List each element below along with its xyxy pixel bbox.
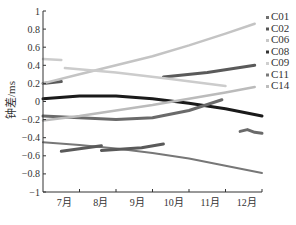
series-c06 — [43, 24, 255, 84]
legend-label: C06 — [271, 33, 290, 45]
legend-marker-icon — [266, 85, 269, 88]
legend-label: C01 — [271, 10, 289, 22]
legend-item-c08: C08 — [266, 45, 290, 57]
series-segment — [240, 130, 262, 134]
legend-marker-icon — [266, 51, 269, 54]
legend-marker-icon — [266, 74, 269, 77]
axes — [43, 11, 262, 192]
legend-item-c02: C02 — [266, 22, 289, 34]
legend-marker-icon — [266, 28, 269, 31]
y-tick-label: −1 — [29, 187, 40, 198]
legend-label: C02 — [271, 22, 289, 34]
legend-item-c01: C01 — [266, 10, 289, 22]
x-tick-label: 11月 — [200, 197, 220, 208]
legend-marker-icon — [266, 16, 269, 19]
legend-label: C08 — [271, 45, 290, 57]
legend-label: C09 — [271, 56, 290, 68]
plot-series — [43, 24, 262, 173]
legend-item-c14: C14 — [266, 79, 290, 91]
legend-marker-icon — [266, 62, 269, 65]
series-c14 — [43, 87, 255, 121]
x-tick-label: 10月 — [164, 197, 184, 208]
y-tick-label: −0.6 — [22, 150, 40, 161]
legend: C01C02C06C08C09C11C14 — [266, 10, 290, 91]
series-segment — [65, 68, 226, 86]
y-tick-label: 0.2 — [28, 78, 41, 89]
series-segment — [43, 87, 255, 121]
legend-label: C11 — [271, 68, 289, 80]
y-tick-label: −0.8 — [22, 168, 40, 179]
chart: 10.80.60.40.20−0.2−0.4−0.6−0.8−1 7月8月9月1… — [0, 0, 296, 225]
series-segment — [43, 59, 61, 60]
series-segment — [163, 65, 254, 77]
y-tick-label: 0 — [35, 96, 40, 107]
y-tick-label: 0.4 — [28, 60, 41, 71]
legend-label: C14 — [271, 79, 290, 91]
x-tick-label: 9月 — [130, 197, 145, 208]
legend-item-c06: C06 — [266, 33, 290, 45]
y-tick-label: −0.2 — [22, 114, 40, 125]
legend-item-c11: C11 — [266, 68, 289, 80]
series-segment — [61, 146, 101, 152]
series-segment — [43, 24, 255, 84]
y-tick-label: 1 — [35, 6, 40, 17]
y-ticks: 10.80.60.40.20−0.2−0.4−0.6−0.8−1 — [22, 6, 46, 198]
legend-item-c09: C09 — [266, 56, 290, 68]
y-axis-label: 钟差/ms — [4, 81, 17, 119]
x-tick-label: 12月 — [237, 197, 257, 208]
y-tick-label: −0.4 — [22, 132, 40, 143]
y-tick-label: 0.6 — [28, 42, 41, 53]
y-tick-label: 0.8 — [28, 24, 41, 35]
x-tick-label: 8月 — [93, 197, 108, 208]
x-tick-label: 7月 — [57, 197, 72, 208]
legend-marker-icon — [266, 39, 269, 42]
